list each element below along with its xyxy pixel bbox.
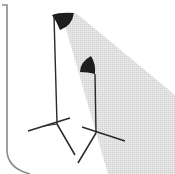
light-beam [64,13,175,174]
illustration-canvas [0,0,175,174]
frame-border [2,5,30,174]
studio-lights-illustration [0,0,175,174]
